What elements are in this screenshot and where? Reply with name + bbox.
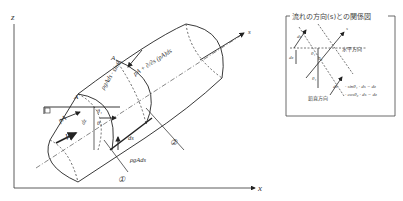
label-s-axis: s — [248, 28, 251, 36]
label-V: V — [65, 133, 71, 142]
label-weight: ρgAds — [129, 156, 147, 163]
inset-vertical-label: 鉛直方向 — [308, 95, 328, 102]
label-theta1: θ₁ — [97, 108, 102, 114]
label-pressure-downstream: pA + ∂/∂s (pA)ds — [131, 47, 174, 79]
label-ds: ds — [128, 134, 134, 141]
inset-theta2: θ₂ — [318, 56, 322, 61]
x-axis-label: x — [257, 183, 262, 193]
inset-theta1-low: θ₁ — [312, 76, 316, 81]
label-weight-component: ρgAds · sinθ₁ — [98, 58, 123, 91]
inset-s-label: s — [346, 26, 348, 31]
flow-tube-diagram: z x — [0, 0, 403, 201]
inset-theta1: θ₁ — [311, 51, 315, 56]
label-dz: dz — [80, 117, 88, 125]
inset-title: 流れの方向(s)との関係図 — [292, 12, 371, 21]
label-section-1: ① — [118, 175, 126, 184]
label-pA: pA — [56, 114, 68, 126]
z-axis-label: z — [10, 12, 15, 22]
inset-ds-bottom: ds — [333, 84, 338, 89]
label-section-2: ② — [170, 138, 178, 147]
inset-equation-2: · cosθ₂ · ds = dz — [345, 92, 377, 97]
inset-relation-diagram: 流れの方向(s)との関係図 s ds ds dz 水平方向 鉛直方向 θ₁ θ₂… — [286, 12, 395, 116]
label-A-left: A — [73, 93, 79, 101]
inset-ds-top: ds — [297, 34, 302, 39]
label-theta2: θ₂ — [97, 120, 102, 126]
axes: z x — [10, 12, 262, 193]
inset-dz: dz — [289, 55, 294, 60]
inset-equation-1: · sinθ₁ · ds = dz — [345, 84, 376, 89]
inset-horizontal-label: 水平方向 — [342, 46, 362, 53]
